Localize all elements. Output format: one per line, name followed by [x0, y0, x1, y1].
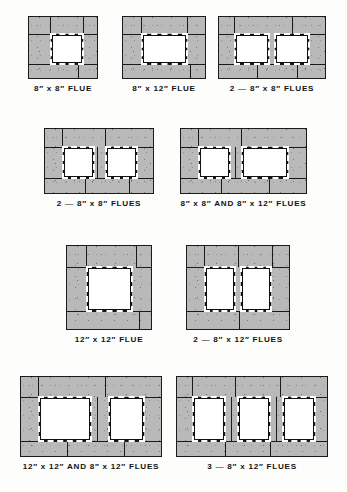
flue-arrangement-sheet: 8″ x 8″ FLUE8″ x 12″ FLUE2 — 8″ x 8″ FLU…	[0, 0, 347, 492]
mortar-joint	[204, 246, 205, 267]
figure-caption: 3 — 8″ x 12″ FLUES	[79, 462, 347, 471]
mortar-joint	[142, 64, 206, 65]
flue-opening	[283, 397, 315, 441]
chimney-section	[28, 16, 98, 79]
mortar-joint	[137, 178, 154, 179]
mortar-joint	[63, 178, 137, 179]
mortar-joint	[87, 311, 152, 312]
mortar-joint	[129, 178, 130, 194]
mortar-joint	[141, 17, 142, 34]
mortar-joint	[219, 34, 235, 35]
mortar-joint	[29, 34, 51, 35]
mortar-joint	[38, 377, 39, 397]
mortar-joint	[83, 34, 98, 35]
flue-opening	[142, 34, 187, 64]
mortar-joint	[181, 147, 199, 148]
flue-opening	[235, 34, 269, 64]
chimney-section	[122, 16, 206, 79]
mortar-joint	[257, 64, 258, 79]
chimney-section	[44, 128, 154, 194]
mortar-joint	[97, 147, 98, 178]
chimney-section	[218, 16, 326, 79]
mortar-joint	[276, 397, 277, 441]
mortar-joint	[136, 267, 152, 268]
mortar-joint	[105, 129, 106, 147]
mortar-joint	[85, 178, 86, 194]
mortar-joint	[234, 17, 235, 34]
mortar-joint	[193, 441, 315, 442]
flue-opening	[39, 397, 91, 441]
mortar-joint	[51, 64, 98, 65]
flue-opening	[193, 397, 225, 441]
mortar-joint	[181, 178, 199, 179]
mortar-joint	[235, 147, 236, 178]
mortar-joint	[144, 397, 162, 398]
mortar-joint	[190, 64, 191, 79]
chimney-section	[176, 376, 328, 457]
mortar-joint	[309, 64, 326, 65]
flue-opening	[106, 147, 137, 178]
mortar-joint	[67, 267, 87, 268]
mortar-joint	[288, 147, 307, 148]
flue-opening	[109, 397, 144, 441]
mortar-joint	[21, 397, 39, 398]
flue-opening	[275, 34, 309, 64]
mortar-joint	[187, 267, 205, 268]
mortar-joint	[199, 178, 288, 179]
mortar-joint	[241, 129, 242, 147]
mortar-joint	[177, 397, 193, 398]
mortar-joint	[270, 441, 271, 457]
flue-opening	[205, 267, 235, 311]
mortar-joint	[187, 311, 205, 312]
mortar-joint	[198, 129, 199, 147]
chimney-section	[186, 245, 290, 330]
mortar-joint	[97, 397, 98, 441]
flue-opening	[238, 397, 270, 441]
mortar-joint	[221, 178, 222, 194]
mortar-joint	[187, 34, 206, 35]
mortar-joint	[231, 397, 232, 441]
mortar-joint	[288, 178, 307, 179]
mortar-joint	[123, 64, 142, 65]
mortar-joint	[67, 441, 68, 457]
mortar-joint	[271, 311, 290, 312]
mortar-joint	[39, 441, 144, 442]
mortar-joint	[177, 441, 193, 442]
mortar-joint	[280, 377, 281, 397]
mortar-joint	[315, 397, 328, 398]
mortar-joint	[225, 441, 226, 457]
flue-opening	[199, 147, 230, 178]
mortar-joint	[315, 441, 328, 442]
mortar-joint	[124, 441, 125, 457]
mortar-joint	[62, 129, 63, 147]
mortar-joint	[235, 377, 236, 397]
mortar-joint	[187, 17, 188, 34]
mortar-joint	[219, 64, 235, 65]
mortar-joint	[86, 246, 87, 267]
mortar-joint	[192, 377, 193, 397]
flue-opening	[51, 34, 83, 64]
mortar-joint	[205, 311, 271, 312]
flue-opening	[241, 267, 271, 311]
chimney-section	[66, 245, 152, 330]
mortar-joint	[21, 441, 39, 442]
mortar-joint	[105, 377, 106, 397]
mortar-joint	[297, 64, 298, 79]
mortar-joint	[309, 34, 326, 35]
flue-opening	[63, 147, 94, 178]
figure-caption: 2 — 8″ x 8″ FLUES	[99, 84, 347, 93]
mortar-joint	[123, 34, 142, 35]
mortar-joint	[139, 311, 140, 330]
mortar-joint	[78, 64, 79, 79]
mortar-joint	[45, 178, 63, 179]
flue-opening	[87, 267, 132, 311]
mortar-joint	[269, 178, 270, 194]
mortar-joint	[29, 64, 51, 65]
mortar-joint	[50, 17, 51, 34]
mortar-joint	[272, 246, 273, 267]
mortar-joint	[83, 17, 84, 34]
mortar-joint	[238, 246, 239, 267]
mortar-joint	[136, 246, 137, 267]
mortar-joint	[45, 147, 63, 148]
mortar-joint	[239, 311, 240, 330]
